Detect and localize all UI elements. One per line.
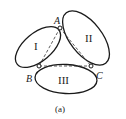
joint-a-label: A: [53, 15, 61, 26]
joint-b-label: B: [26, 73, 32, 84]
body-1-label: I: [34, 40, 38, 52]
three-body-linkage-diagram: A B C I II III (a): [0, 0, 126, 119]
joint-a-pin: [58, 26, 62, 30]
body-2-label: II: [85, 32, 93, 44]
body-3-label: III: [58, 74, 69, 86]
joint-c-label: C: [96, 70, 103, 81]
figure-caption: (a): [55, 104, 65, 114]
joint-c-pin: [89, 64, 93, 68]
joint-b-pin: [37, 64, 41, 68]
